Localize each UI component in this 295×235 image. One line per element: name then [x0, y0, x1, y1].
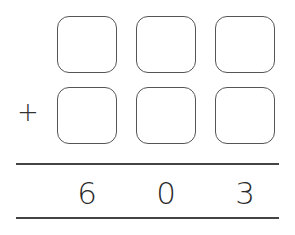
addend1-tens-box[interactable] — [136, 16, 196, 73]
result-tens-digit: 0 — [151, 177, 181, 209]
addend2-tens-box[interactable] — [136, 87, 196, 144]
addend1-hundreds-box[interactable] — [57, 16, 117, 73]
addend1-ones-box[interactable] — [215, 16, 275, 73]
addend2-ones-box[interactable] — [215, 87, 275, 144]
plus-sign: + — [17, 101, 35, 123]
result-ones-digit: 3 — [230, 177, 260, 209]
result-hundreds-digit: 6 — [72, 177, 102, 209]
addend2-hundreds-box[interactable] — [57, 87, 117, 144]
sum-line-bottom — [16, 217, 279, 219]
sum-line-top — [16, 163, 279, 165]
